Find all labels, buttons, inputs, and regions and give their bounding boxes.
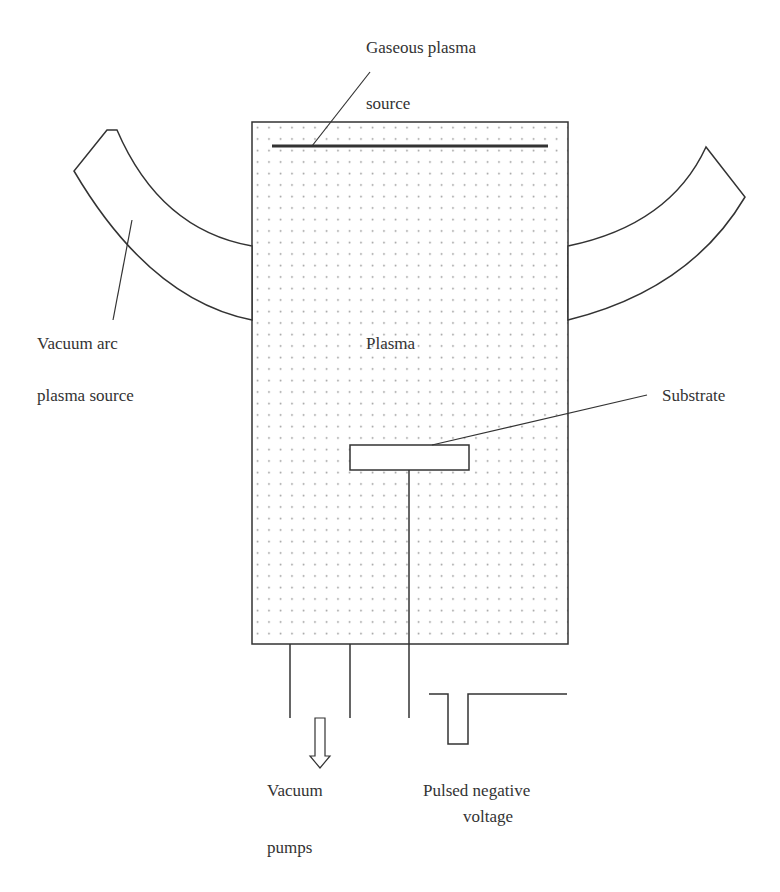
pulse-label-1: Pulsed negative	[423, 781, 530, 800]
vacuum-pumps-label-2: pumps	[267, 838, 312, 857]
substrate	[350, 445, 469, 470]
vacuum-arc-label-2: plasma source	[37, 386, 134, 405]
vacuum-arc-source-right	[568, 147, 745, 320]
gaseous-source-label-1: Gaseous plasma	[366, 38, 476, 57]
pulse-label-2: voltage	[463, 807, 513, 826]
plasma-label: Plasma	[366, 334, 416, 353]
vacuum-pumps-label-1: Vacuum	[267, 781, 323, 800]
vacuum-arc-label-1: Vacuum arc	[37, 334, 118, 353]
substrate-label: Substrate	[662, 386, 725, 405]
diagram-canvas: Gaseous plasma source Vacuum arc plasma …	[0, 0, 780, 892]
vacuum-arc-source-left	[74, 130, 252, 320]
pulse-waveform	[429, 694, 567, 744]
gaseous-source-label-2: source	[366, 94, 410, 113]
down-arrow-icon	[310, 718, 330, 768]
chamber	[252, 122, 568, 644]
